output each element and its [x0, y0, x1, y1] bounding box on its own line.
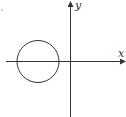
y-axis-label: y	[74, 0, 82, 12]
x-axis-label: x	[118, 47, 125, 60]
coordinate-diagram: y x	[0, 0, 126, 117]
stray-dot	[1, 9, 3, 11]
